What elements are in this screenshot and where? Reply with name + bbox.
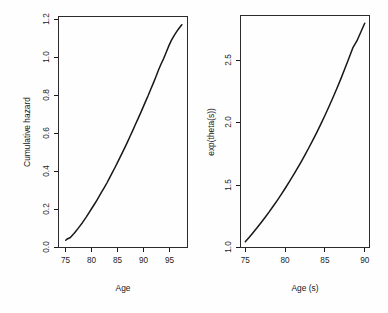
y-tick-label: 1.2: [42, 13, 51, 25]
y-tick-label: 2.5: [224, 54, 233, 66]
y-tick-label: 2.0: [224, 116, 233, 128]
x-tick-label: 90: [360, 256, 370, 265]
chart-panel-exp-theta: 1.0 1.5 2.0 2.5 75 80 85 90 exp(theta(s)…: [194, 0, 388, 313]
y-tick-label: 0.4: [42, 165, 51, 177]
figure-root: 0.0 0.2 0.4 0.6 0.8 1.0 1.2 75 80 85 90: [0, 0, 388, 313]
cumulative-hazard-plot: 0.0 0.2 0.4 0.6 0.8 1.0 1.2 75 80 85 90: [0, 0, 194, 313]
y-tick-label: 0.0: [42, 241, 51, 253]
y-tick-label: 0.8: [42, 89, 51, 101]
x-tick-label: 95: [165, 256, 175, 265]
x-tick-label: 75: [241, 256, 251, 265]
y-tick-label: 1.0: [224, 241, 233, 253]
x-tick-label: 85: [320, 256, 330, 265]
y-axis-title: exp(theta(s)): [206, 108, 216, 156]
x-tick-label: 80: [281, 256, 291, 265]
x-tick-label: 75: [61, 256, 71, 265]
y-tick-label: 0.2: [42, 203, 51, 215]
chart-panel-cumulative-hazard: 0.0 0.2 0.4 0.6 0.8 1.0 1.2 75 80 85 90: [0, 0, 194, 313]
y-axis-title: Cumulative hazard: [22, 97, 32, 167]
panel-background: [194, 0, 388, 313]
exp-theta-plot: 1.0 1.5 2.0 2.5 75 80 85 90 exp(theta(s)…: [194, 0, 388, 313]
x-tick-label: 80: [87, 256, 97, 265]
x-axis-title: Age: [116, 283, 131, 293]
x-tick-label: 90: [139, 256, 149, 265]
x-tick-label: 85: [113, 256, 123, 265]
x-axis-title: Age (s): [292, 283, 319, 293]
y-tick-label: 1.5: [224, 179, 233, 191]
y-tick-label: 0.6: [42, 127, 51, 139]
y-tick-label: 1.0: [42, 51, 51, 63]
